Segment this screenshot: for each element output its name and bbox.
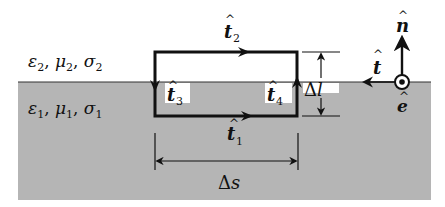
binormal-dot xyxy=(399,79,405,85)
svg-text:t: t xyxy=(227,123,236,144)
upper-medium-label: ε2, μ2, σ2 xyxy=(28,51,102,74)
svg-text:t: t xyxy=(224,21,233,42)
tangent-vector-label: ^ t xyxy=(373,48,383,78)
t2-label: ^ t 2 xyxy=(224,13,240,45)
svg-text:3: 3 xyxy=(176,95,183,108)
delta-s-label: Δs xyxy=(218,172,240,193)
delta-l-label: Δl xyxy=(304,79,323,100)
svg-text:t: t xyxy=(267,84,276,105)
normal-vector-label: ^ n xyxy=(396,9,409,36)
svg-text:1: 1 xyxy=(236,135,243,148)
svg-text:e: e xyxy=(397,96,408,116)
svg-text:t: t xyxy=(373,57,382,78)
svg-text:4: 4 xyxy=(276,95,283,108)
svg-text:t: t xyxy=(167,84,176,105)
binormal-vector-label: ^ e xyxy=(397,90,409,116)
svg-text:2: 2 xyxy=(233,32,240,45)
svg-text:n: n xyxy=(396,15,409,36)
interface-boundary-diagram: ε2, μ2, σ2 ε1, μ1, σ1 ^ t 2 ^ t 3 ^ t 4 … xyxy=(0,0,445,207)
